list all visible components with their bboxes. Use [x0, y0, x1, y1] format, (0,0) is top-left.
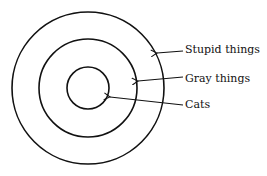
- label-stupid-things: Stupid things: [185, 44, 260, 56]
- arrow-gray-things: [138, 77, 183, 81]
- diagram-graphics: [0, 0, 267, 176]
- arrow-cats: [110, 97, 183, 105]
- label-gray-things: Gray things: [185, 73, 250, 85]
- middle-circle: [39, 39, 137, 137]
- venn-diagram: Stupid things Gray things Cats: [0, 0, 267, 176]
- outer-circle: [12, 12, 164, 164]
- inner-circle: [67, 67, 109, 109]
- arrow-stupid-things: [157, 51, 183, 53]
- label-cats: Cats: [185, 99, 210, 111]
